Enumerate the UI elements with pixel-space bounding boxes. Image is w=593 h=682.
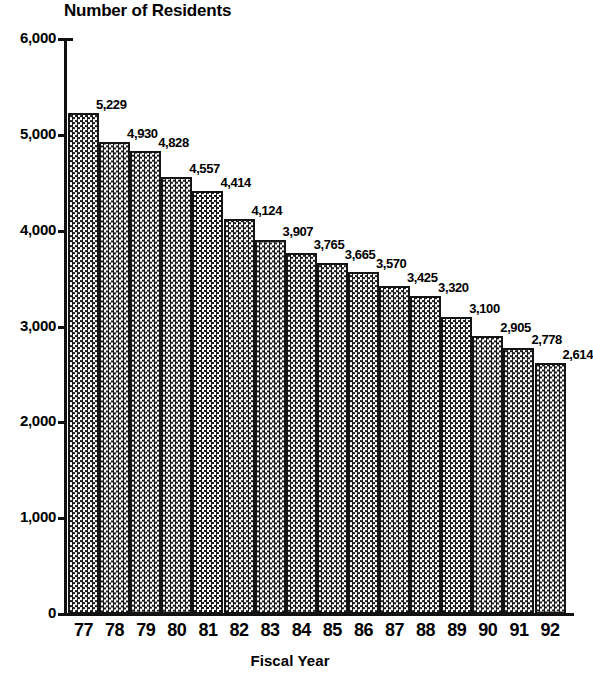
x-axis-tick-label: 90 [470,620,505,641]
x-axis-tick-label: 80 [159,620,194,641]
y-axis-tick-label: 1,000 [0,508,56,526]
y-axis-tick-mark [58,134,67,137]
x-axis-tick-label: 78 [97,620,132,641]
x-axis-tick-label: 85 [315,620,350,641]
bar [68,113,99,614]
bar-value-label: 3,425 [407,270,438,285]
bar-value-label: 4,828 [158,135,189,150]
y-axis-tick-label: 5,000 [0,125,56,143]
y-axis-tick-mark [58,230,67,233]
x-axis-tick-label: 92 [533,620,568,641]
y-axis-tick-mark [58,517,67,520]
y-axis-tick-label: 0 [0,604,56,622]
bar [441,317,472,614]
y-axis-tick-label: 4,000 [0,221,56,239]
y-axis-tick-mark [58,613,67,616]
bar [503,348,534,614]
bar [161,177,192,614]
y-axis-tick-label-text: 4,000 [0,221,56,238]
y-axis-tick-label: 3,000 [0,317,56,335]
y-axis-tick-mark [58,38,67,41]
bar-value-label: 2,905 [500,320,531,335]
x-axis-tick-label: 82 [222,620,257,641]
bar-value-label: 3,665 [345,247,376,262]
y-axis-tick-label-text: 3,000 [0,317,56,334]
bar-value-label: 4,557 [189,161,220,176]
x-axis-tick-label: 83 [253,620,288,641]
x-axis-tick-label: 79 [128,620,163,641]
x-axis-title: Fiscal Year [0,652,580,669]
bar-value-label: 4,124 [252,203,283,218]
y-axis-tick-label-text: 5,000 [0,125,56,142]
bar [472,336,503,614]
y-axis-tick-label-text: 0 [0,604,56,621]
y-axis-tick-label: 6,000 [0,29,56,47]
bar [99,142,130,614]
bar [348,272,379,614]
x-axis-tick-label: 81 [190,620,225,641]
x-axis-tick-label: 88 [408,620,443,641]
x-axis-tick-label: 87 [377,620,412,641]
bar-value-label: 3,320 [438,280,469,295]
bar [317,263,348,614]
bar-value-label: 2,614 [563,347,593,362]
bar-value-label: 3,100 [469,301,500,316]
bar [192,191,223,614]
x-axis-tick-label: 77 [66,620,101,641]
bar-value-label: 3,907 [283,224,314,239]
x-axis-tick-label: 84 [284,620,319,641]
x-axis-tick-label: 91 [501,620,536,641]
bar-value-label: 3,765 [314,237,345,252]
y-axis-tick-mark [58,326,67,329]
bar [286,253,317,614]
y-axis-tick-label-text: 2,000 [0,412,56,429]
bar [410,296,441,614]
bar-value-label: 3,570 [376,256,407,271]
bar [130,151,161,614]
bar-value-label: 4,414 [220,175,251,190]
bar-value-label: 5,229 [96,97,127,112]
y-axis-tick-mark [58,421,67,424]
x-axis-tick-label: 89 [439,620,474,641]
y-axis-tick-label-text: 6,000 [0,29,56,46]
x-axis-tick-label: 86 [346,620,381,641]
bar-value-label: 4,930 [127,126,158,141]
bar [255,240,286,614]
bar [224,219,255,614]
bar [379,286,410,614]
bar [535,363,566,614]
bar-value-label: 2,778 [531,332,562,347]
y-axis-tick-label: 2,000 [0,412,56,430]
y-axis-tick-label-text: 1,000 [0,508,56,525]
chart-title: Number of Residents [64,1,231,21]
